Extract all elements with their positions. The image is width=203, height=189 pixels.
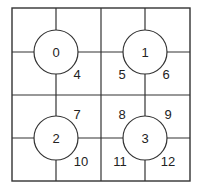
cell-label-4: 4	[73, 67, 80, 82]
cell-label-6: 6	[162, 67, 169, 82]
node-label: 3	[141, 131, 148, 146]
cell-label-8: 8	[118, 107, 125, 122]
node-label: 1	[141, 45, 148, 60]
node-label: 2	[52, 131, 59, 146]
node-1: 1	[123, 30, 167, 74]
cell-label-12: 12	[161, 154, 175, 169]
node-2: 2	[34, 116, 78, 160]
node-0: 0	[34, 30, 78, 74]
cell-label-5: 5	[118, 67, 125, 82]
cell-label-9: 9	[164, 107, 171, 122]
node-label: 0	[52, 45, 59, 60]
quadrant-diagram: 0 1 2 3 4 5 6 7 8 9 10 11 12	[0, 0, 203, 189]
cell-label-7: 7	[73, 107, 80, 122]
cell-label-11: 11	[113, 154, 127, 169]
cell-label-10: 10	[74, 154, 88, 169]
